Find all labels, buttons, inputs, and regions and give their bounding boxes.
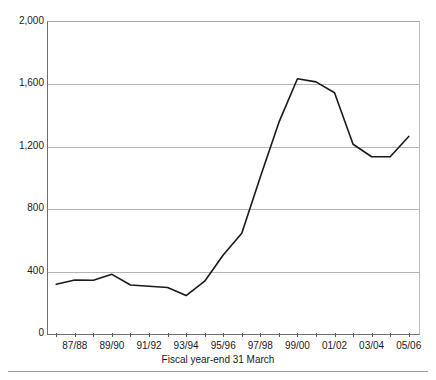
x-tick-89/90	[112, 333, 113, 337]
x-tick-88/89	[93, 333, 94, 337]
x-tick-label-87-88: 87/88	[62, 340, 87, 351]
plot-area	[47, 21, 420, 335]
x-tick-98/99	[279, 333, 280, 337]
x-tick-label-93-94: 93/94	[174, 340, 199, 351]
x-tick-02/03	[353, 333, 354, 337]
x-tick-label-91-92: 91/92	[137, 340, 162, 351]
gridline-1600	[48, 84, 419, 85]
x-tick-label-05-06: 05/06	[396, 340, 421, 351]
bottom-divider	[8, 371, 428, 372]
y-tick-label-400: 400	[4, 266, 44, 276]
x-tick-label-03-04: 03/04	[359, 340, 384, 351]
x-tick-label-99-00: 99/00	[285, 340, 310, 351]
chart-figure: 04008001,2001,6002,000 87/8889/9091/9293…	[0, 0, 436, 380]
x-tick-92/93	[168, 333, 169, 337]
x-axis-title: Fiscal year-end 31 March	[0, 354, 436, 366]
x-tick-87/88	[75, 333, 76, 337]
x-tick-01/02	[335, 333, 336, 337]
gridline-800	[48, 209, 419, 210]
x-tick-label-89-90: 89/90	[99, 340, 124, 351]
x-tick-91/92	[149, 333, 150, 337]
x-tick-label-95-96: 95/96	[211, 340, 236, 351]
y-tick-label-2000: 2,000	[4, 16, 44, 26]
x-tick-95/96	[223, 333, 224, 337]
x-tick-86/87	[56, 333, 57, 337]
gridline-400	[48, 272, 419, 273]
y-tick-label-800: 800	[4, 203, 44, 213]
x-tick-label-97-98: 97/98	[248, 340, 273, 351]
x-tick-99/00	[297, 333, 298, 337]
x-tick-96/97	[242, 333, 243, 337]
gridline-1200	[48, 147, 419, 148]
x-tick-90/91	[130, 333, 131, 337]
x-tick-94/95	[205, 333, 206, 337]
x-tick-97/98	[260, 333, 261, 337]
y-tick-label-0: 0	[4, 328, 44, 338]
x-tick-03/04	[372, 333, 373, 337]
x-tick-00/01	[316, 333, 317, 337]
x-tick-93/94	[186, 333, 187, 337]
x-tick-04/05	[390, 333, 391, 337]
x-tick-label-01-02: 01/02	[322, 340, 347, 351]
y-tick-label-1200: 1,200	[4, 141, 44, 151]
x-tick-05/06	[409, 333, 410, 337]
y-tick-label-1600: 1,600	[4, 78, 44, 88]
